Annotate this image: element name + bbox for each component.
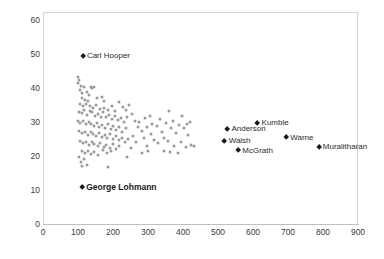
data-point	[103, 126, 106, 129]
data-point	[109, 149, 112, 152]
data-point	[187, 134, 190, 137]
data-point	[100, 95, 103, 98]
plot-area	[43, 12, 358, 224]
data-point	[119, 116, 122, 119]
y-axis-tick-label: 40	[2, 84, 40, 93]
data-point	[105, 116, 108, 119]
data-point	[86, 163, 89, 166]
data-point	[113, 115, 116, 118]
data-point	[95, 104, 98, 107]
y-axis-tick-label: 0	[2, 220, 40, 229]
y-axis-tick-label: 60	[2, 16, 40, 25]
data-point	[140, 151, 143, 154]
y-axis-tick-label: 20	[2, 152, 40, 161]
data-point	[149, 132, 152, 135]
data-point	[142, 137, 145, 140]
data-point	[131, 112, 134, 115]
data-point	[102, 111, 105, 114]
data-point	[148, 114, 151, 117]
x-axis-tick-label: 200	[106, 228, 120, 237]
data-point	[167, 140, 170, 143]
data-point	[95, 122, 98, 125]
data-point	[177, 151, 180, 154]
data-point	[86, 133, 89, 136]
data-point	[162, 137, 165, 140]
data-point	[180, 114, 183, 117]
data-point	[165, 122, 168, 125]
data-point	[163, 149, 166, 152]
data-point	[82, 85, 85, 88]
data-point	[121, 136, 124, 139]
x-axis-tick-label: 0	[41, 228, 46, 237]
data-point	[109, 127, 112, 130]
x-axis-tick-label: 700	[281, 228, 295, 237]
point-label: Walsh	[229, 137, 251, 145]
data-point	[132, 134, 135, 137]
data-point	[130, 146, 133, 149]
point-label: Muralitharan	[323, 143, 367, 151]
data-point	[83, 158, 86, 161]
data-point	[80, 112, 83, 115]
data-point	[122, 120, 125, 123]
point-label: Carl Hooper	[87, 52, 130, 60]
data-point	[177, 124, 180, 127]
data-point	[182, 126, 185, 129]
data-point	[155, 125, 158, 128]
data-point	[78, 156, 81, 159]
data-point	[168, 110, 171, 113]
x-axis-tick-label: 500	[211, 228, 225, 237]
data-point	[92, 107, 95, 110]
data-point	[151, 123, 154, 126]
data-point	[141, 130, 144, 133]
data-point	[79, 160, 82, 163]
data-point	[145, 144, 148, 147]
data-point	[83, 109, 86, 112]
data-point	[97, 153, 100, 156]
data-point	[110, 118, 113, 121]
data-point	[124, 140, 127, 143]
data-point	[170, 127, 173, 130]
data-point	[109, 133, 112, 136]
data-point	[128, 103, 131, 106]
data-point	[126, 115, 129, 118]
data-point	[158, 117, 161, 120]
data-point	[114, 135, 117, 138]
data-point	[161, 131, 164, 134]
data-point	[135, 140, 138, 143]
data-point	[184, 146, 187, 149]
data-point	[114, 110, 117, 113]
y-axis-ticks: 0102030405060	[0, 0, 40, 259]
data-point	[96, 97, 99, 100]
y-axis-tick-label: 10	[2, 186, 40, 195]
data-point	[92, 124, 95, 127]
data-point	[115, 129, 118, 132]
x-axis-tick-label: 800	[316, 228, 330, 237]
data-point	[106, 123, 109, 126]
data-point	[157, 141, 160, 144]
point-label: Warne	[290, 134, 313, 142]
data-point	[117, 145, 120, 148]
data-point	[189, 121, 192, 124]
data-point	[117, 101, 120, 104]
data-point	[95, 134, 98, 137]
y-axis-tick-label: 50	[2, 50, 40, 59]
x-axis-tick-label: 300	[141, 228, 155, 237]
data-point	[101, 148, 104, 151]
data-point	[111, 105, 114, 108]
data-point	[192, 145, 195, 148]
data-point	[103, 99, 106, 102]
data-point	[81, 92, 84, 95]
data-point	[136, 125, 139, 128]
point-label: McGrath	[242, 147, 273, 155]
data-point	[85, 113, 88, 116]
data-point	[77, 81, 80, 84]
data-point	[99, 115, 102, 118]
data-point	[147, 150, 150, 153]
y-axis-tick-label: 30	[2, 118, 40, 127]
data-point	[134, 120, 137, 123]
data-point	[87, 143, 90, 146]
data-point	[172, 119, 175, 122]
data-point	[108, 113, 111, 116]
data-point	[169, 150, 172, 153]
data-point	[84, 123, 87, 126]
